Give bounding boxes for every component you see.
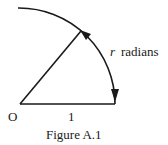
figure-caption: Figure A.1: [46, 128, 102, 141]
radian-diagram: [0, 0, 168, 145]
arc-arrowhead-down-icon: [111, 89, 119, 102]
angled-radius: [20, 31, 81, 104]
origin-label: O: [8, 110, 17, 123]
arc-variable-label: r: [110, 45, 115, 58]
arc-unit-label: radians: [121, 45, 159, 58]
radius-length-label: 1: [68, 110, 75, 123]
